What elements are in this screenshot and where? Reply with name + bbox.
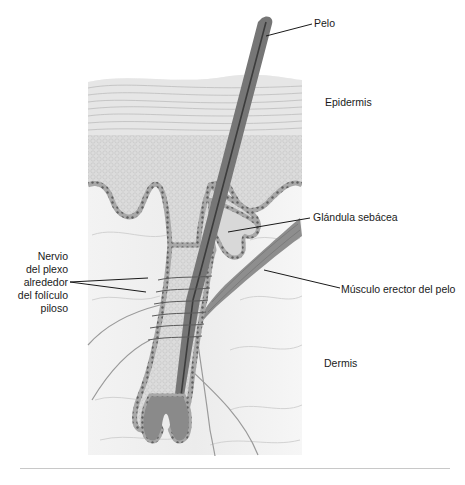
label-glandula-sebacea: Glándula sebácea xyxy=(313,211,398,224)
label-musculo-erector: Músculo erector del pelo xyxy=(341,283,455,296)
label-nervio-plexo: Nervio del plexo alrededor del folículo … xyxy=(18,250,68,315)
label-dermis: Dermis xyxy=(324,357,357,370)
hair-follicle-diagram xyxy=(0,0,465,485)
label-nervio-line-2: del plexo xyxy=(18,263,68,276)
label-epidermis: Epidermis xyxy=(325,96,372,109)
label-nervio-line-3: alrededor xyxy=(18,276,68,289)
bottom-divider xyxy=(20,468,450,469)
label-nervio-line-1: Nervio xyxy=(18,250,68,263)
label-nervio-line-4: del folículo xyxy=(18,289,68,302)
label-pelo: Pelo xyxy=(314,17,335,30)
label-nervio-line-5: piloso xyxy=(18,302,68,315)
leader-pelo xyxy=(266,24,312,36)
